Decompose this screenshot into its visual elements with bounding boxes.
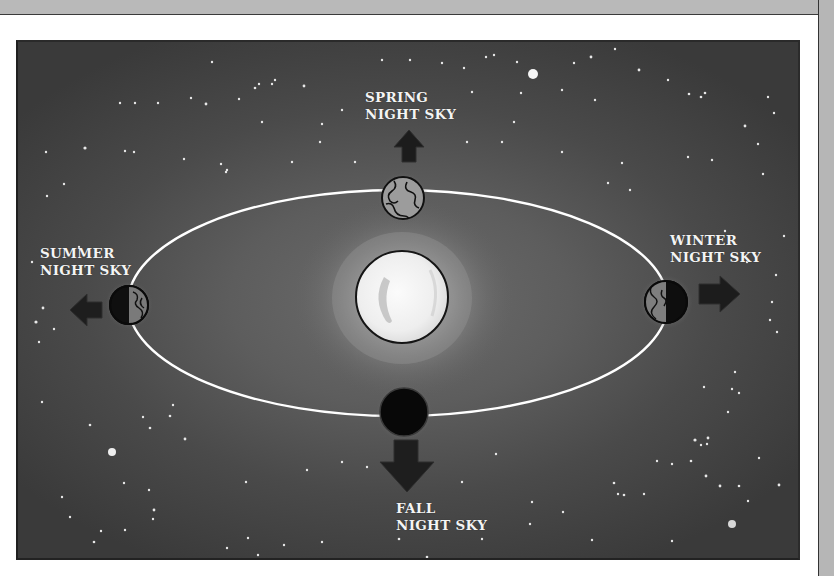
night-sky-panel: SPRING NIGHT SKY SUMMER NIGHT SKY WINTER… [16, 40, 800, 560]
label-spring-night-sky: SPRING NIGHT SKY [365, 89, 456, 123]
earth-winter [639, 275, 693, 329]
earth-spring [377, 172, 429, 224]
earth-summer [105, 281, 153, 329]
label-summer-night-sky: SUMMER NIGHT SKY [40, 245, 131, 279]
label-summer-line2: NIGHT SKY [40, 262, 131, 279]
earth-fall [375, 383, 433, 441]
page-frame-top [0, 0, 833, 15]
label-winter-line2: NIGHT SKY [670, 249, 761, 266]
label-fall-line1: FALL [396, 500, 487, 517]
arrow-left-icon [70, 294, 102, 326]
arrow-up-icon [394, 130, 424, 162]
label-winter-night-sky: WINTER NIGHT SKY [670, 232, 761, 266]
label-fall-night-sky: FALL NIGHT SKY [396, 500, 487, 534]
arrow-down-icon [380, 440, 434, 492]
label-fall-line2: NIGHT SKY [396, 517, 487, 534]
sun [356, 251, 448, 343]
label-spring-line2: NIGHT SKY [365, 106, 456, 123]
label-winter-line1: WINTER [670, 232, 761, 249]
label-spring-line1: SPRING [365, 89, 456, 106]
label-summer-line1: SUMMER [40, 245, 131, 262]
arrow-right-icon [699, 276, 740, 312]
page-frame-right [818, 0, 834, 576]
